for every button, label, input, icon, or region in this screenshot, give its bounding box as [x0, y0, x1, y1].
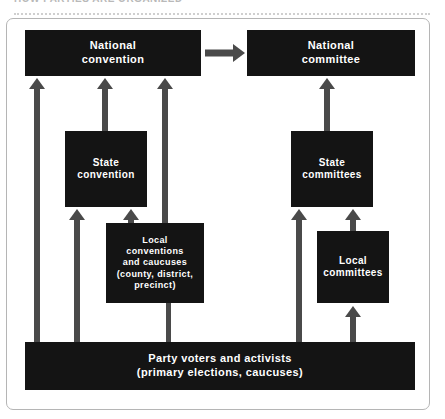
node-label: Local committees — [319, 255, 387, 280]
arrow-shaft — [102, 88, 108, 133]
arrow-shaft — [324, 88, 330, 133]
node-label: National convention — [78, 39, 149, 67]
arrow-national-convention-to-national-committee — [205, 43, 245, 63]
arrow-shaft — [350, 316, 356, 344]
node-label: State convention — [73, 157, 138, 182]
node-state-convention[interactable]: State convention — [65, 131, 147, 207]
arrow-shaft — [34, 88, 40, 343]
clipped-header-title: HOW PARTIES ARE ORGANIZED — [14, 0, 314, 5]
node-local-conventions[interactable]: Local conventions and caucuses (county, … — [106, 223, 204, 303]
node-label: Party voters and activists (primary elec… — [133, 352, 307, 380]
arrow-shaft — [205, 50, 235, 57]
arrowhead-right-icon — [233, 44, 245, 62]
node-national-committee[interactable]: National committee — [247, 30, 415, 76]
node-label: Local conventions and caucuses (county, … — [113, 235, 198, 291]
arrow-shaft — [296, 219, 302, 343]
node-national-convention[interactable]: National convention — [25, 30, 201, 76]
node-state-committees[interactable]: State committees — [291, 131, 373, 207]
arrow-shaft — [162, 88, 168, 225]
node-label: National committee — [298, 39, 365, 67]
connector-party-voters-to-local-conventions — [166, 303, 171, 343]
arrow-shaft — [74, 219, 80, 343]
node-local-committees[interactable]: Local committees — [317, 231, 389, 303]
node-party-voters[interactable]: Party voters and activists (primary elec… — [25, 342, 415, 390]
node-label: State committees — [298, 157, 366, 182]
dotted-divider — [14, 13, 430, 15]
diagram-page: HOW PARTIES ARE ORGANIZED — [0, 0, 445, 419]
